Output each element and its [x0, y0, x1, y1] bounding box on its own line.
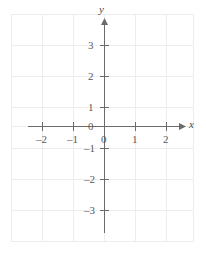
x-axis [28, 123, 186, 130]
y-axis [101, 18, 108, 233]
y-axis-arrowhead [101, 18, 108, 25]
x-axis-label: x [189, 119, 194, 130]
x-tick-label-2: 2 [163, 134, 169, 145]
x-tick-label--2: –2 [36, 134, 47, 145]
y-tick-label--3: –3 [84, 205, 95, 216]
x-axis-arrowhead [179, 123, 186, 130]
y-origin-label: 0 [88, 121, 94, 132]
x-tick-label-1: 1 [132, 134, 138, 145]
y-tick-label-1: 1 [88, 102, 94, 113]
x-tick-label--1: –1 [67, 134, 78, 145]
coordinate-plane-figure: y x 3 2 1 0 –1 –2 –3 –2 –1 0 1 2 [0, 0, 206, 258]
y-tick-label-3: 3 [88, 40, 94, 51]
coordinate-grid-graphic [0, 0, 206, 258]
y-axis-label: y [99, 4, 104, 15]
y-tick-label--1: –1 [84, 143, 95, 154]
y-tick-label--2: –2 [84, 174, 95, 185]
x-origin-label: 0 [101, 134, 107, 145]
y-tick-label-2: 2 [88, 71, 94, 82]
